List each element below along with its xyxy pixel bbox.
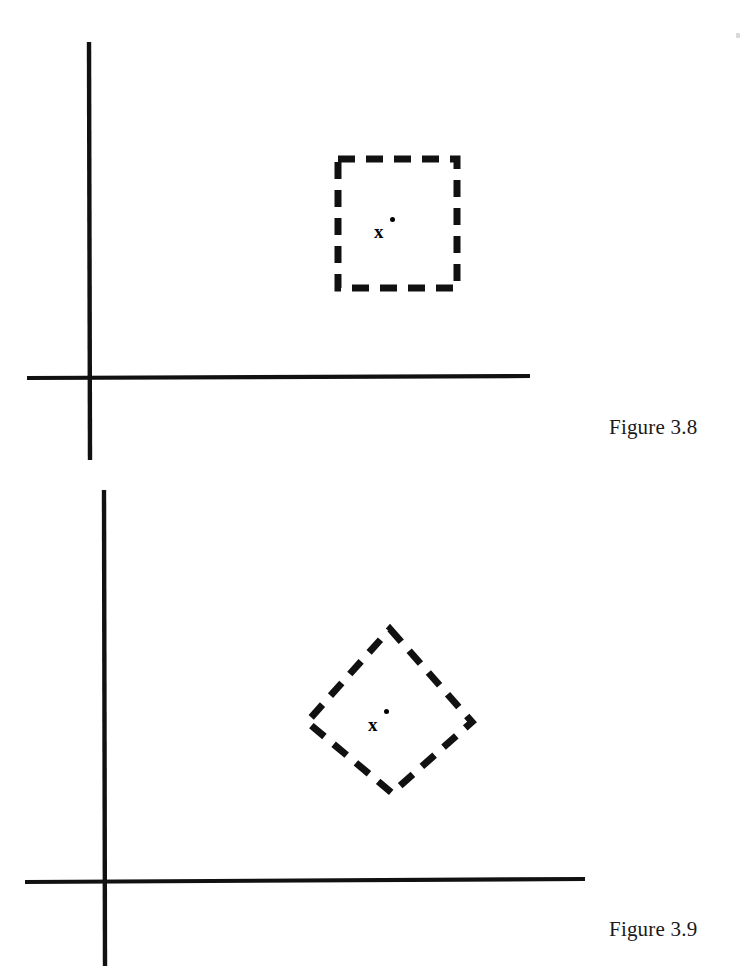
figure-3-8: x Figure 3.8 <box>0 0 752 470</box>
point-marker-x-upper: x <box>374 222 384 241</box>
figure-page: x Figure 3.8 x Figure 3.9 <box>0 0 752 971</box>
point-dot-icon <box>384 709 389 714</box>
point-label-text: x <box>368 714 378 735</box>
vertical-axis <box>89 42 90 460</box>
point-label-text: x <box>374 221 384 242</box>
figure-3-9-caption: Figure 3.9 <box>609 917 697 942</box>
figure-3-9: x Figure 3.9 <box>0 480 752 971</box>
figure-3-8-caption: Figure 3.8 <box>609 415 697 440</box>
scan-speck-artifact <box>736 33 740 38</box>
vertical-axis <box>104 490 105 966</box>
point-marker-x-lower: x <box>368 715 378 734</box>
horizontal-axis <box>25 879 585 882</box>
horizontal-axis <box>27 376 530 378</box>
dashed-diamond-shape <box>307 629 472 793</box>
point-dot-icon <box>390 217 395 222</box>
dashed-square-shape <box>338 159 457 288</box>
